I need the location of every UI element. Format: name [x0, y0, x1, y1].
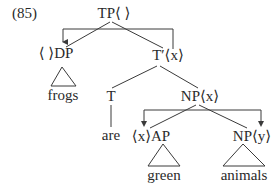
- arrowhead-np-y: [258, 121, 264, 127]
- arrowhead-ap: [141, 121, 147, 127]
- edge-tp-tbar: [112, 22, 163, 48]
- edge-tbar-t: [112, 66, 157, 88]
- example-number: (85): [12, 6, 37, 21]
- leaf-frogs: frogs: [48, 88, 79, 103]
- triangle-dp: [51, 67, 76, 86]
- node-dp: ⟨ ⟩DP: [39, 46, 74, 61]
- node-t-bar: T′⟨x⟩: [152, 48, 184, 63]
- edge-tbar-np: [160, 66, 198, 88]
- triangle-ap: [148, 144, 180, 166]
- node-ap: ⟨x⟩AP: [132, 129, 170, 144]
- triangle-np-y: [223, 144, 265, 166]
- leaf-animals: animals: [221, 168, 268, 183]
- leaf-green: green: [147, 168, 180, 183]
- edge-np-np: [199, 105, 247, 128]
- tree-edges: [0, 0, 280, 191]
- node-np-top: NP⟨x⟩: [181, 89, 219, 104]
- node-np-bottom: NP⟨y⟩: [233, 129, 271, 144]
- edge-np-ap: [150, 105, 196, 128]
- node-tp: TP⟨ ⟩: [98, 6, 131, 21]
- edge-tp-dp: [66, 22, 110, 47]
- leaf-are: are: [102, 128, 120, 143]
- node-t: T: [106, 89, 115, 104]
- syntax-tree-diagram: (85) TP⟨ ⟩ ⟨ ⟩DP T′⟨x⟩ frogs T NP⟨x⟩ are…: [0, 0, 280, 191]
